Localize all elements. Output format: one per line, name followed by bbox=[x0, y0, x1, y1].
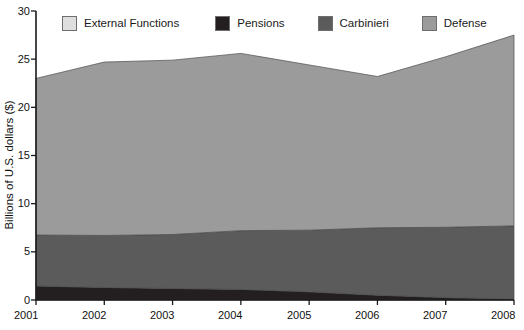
area-band-defense bbox=[36, 35, 514, 235]
stacked-areas bbox=[36, 35, 514, 300]
plot-area bbox=[0, 0, 524, 330]
stacked-area-chart: External Functions Pensions Carbinieri D… bbox=[0, 0, 524, 330]
